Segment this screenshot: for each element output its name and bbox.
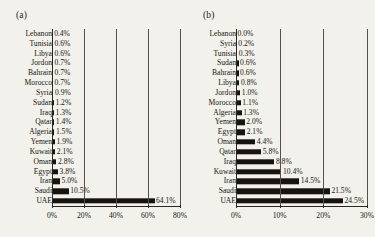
- category-label: Yemen: [215, 119, 236, 127]
- bar-row: Syria0.9%: [0, 88, 188, 98]
- category-label: Saudi: [35, 187, 52, 195]
- category-label: Iran: [40, 178, 52, 186]
- bar-row: Bahrain0.6%: [187, 68, 375, 78]
- category-label: Bahrain: [28, 69, 52, 77]
- bar-track: 0.8%: [236, 78, 367, 88]
- bar-track: 8.8%: [236, 157, 367, 167]
- bar-track: 5.8%: [236, 147, 367, 157]
- bar: [236, 189, 330, 194]
- bar-value-label: 1.1%: [241, 99, 258, 107]
- category-label: Syria: [36, 89, 52, 97]
- bar-value-label: 0.6%: [239, 60, 256, 68]
- category-label: Oman: [217, 138, 236, 146]
- bar-row: Bahrain0.7%: [0, 68, 188, 78]
- bar-value-label: 21.5%: [330, 187, 351, 195]
- bar-track: 2.1%: [236, 127, 367, 137]
- bar-value-label: 1.0%: [240, 89, 257, 97]
- category-label: Lebanon: [209, 30, 236, 38]
- figure-root: (a) Lebanon0.4%Tunisia0.6%Libya0.6%Jordo…: [0, 0, 375, 237]
- category-label: Yemen: [31, 138, 52, 146]
- bar-value-label: 0.8%: [239, 79, 256, 87]
- bar-value-label: 5.0%: [60, 178, 77, 186]
- bar-row: Oman4.4%: [187, 137, 375, 147]
- bar-value-label: 0.3%: [237, 50, 254, 58]
- panel-a-rows: Lebanon0.4%Tunisia0.6%Libya0.6%Jordon0.7…: [0, 29, 188, 206]
- bar-row: UAE64.1%: [0, 196, 188, 206]
- bar-row: Syria0.2%: [187, 39, 375, 49]
- bar: [236, 179, 299, 184]
- bar: [236, 198, 343, 203]
- x-tick-mark: [84, 205, 85, 208]
- x-tick-label: 0%: [47, 211, 57, 220]
- bar-row: Saudi10.5%: [0, 186, 188, 196]
- bar-row: Lebanon0.4%: [0, 29, 188, 39]
- panel-a-plot-area: Lebanon0.4%Tunisia0.6%Libya0.6%Jordon0.7…: [0, 29, 188, 206]
- bar-value-label: 0.6%: [53, 50, 70, 58]
- category-label: Bahrain: [212, 69, 236, 77]
- category-label: Tunisia: [29, 40, 52, 48]
- x-tick-label: 60%: [141, 211, 155, 220]
- bar-row: Jordon0.7%: [0, 59, 188, 69]
- bar-value-label: 0.6%: [239, 69, 256, 77]
- x-tick-mark: [236, 205, 237, 208]
- bar-value-label: 1.3%: [242, 109, 259, 117]
- bar-value-label: 10.4%: [281, 168, 302, 176]
- category-label: Libya: [34, 50, 52, 58]
- bar-track: 10.4%: [236, 167, 367, 177]
- bar-value-label: 0.7%: [53, 79, 70, 87]
- gridline-a-60%: [148, 29, 149, 206]
- bar-row: Iran5.0%: [0, 177, 188, 187]
- bar-row: Saudi21.5%: [187, 186, 375, 196]
- bar-value-label: 0.7%: [53, 60, 70, 68]
- bar-value-label: 1.5%: [54, 128, 71, 136]
- x-tick-label: 20%: [77, 211, 91, 220]
- x-tick-label: 80%: [173, 211, 187, 220]
- bar-value-label: 0.4%: [53, 30, 70, 38]
- bar-track: 0.6%: [236, 59, 367, 69]
- category-label: Algeria: [213, 109, 236, 117]
- bar-value-label: 14.5%: [299, 178, 320, 186]
- bar-track: 1.0%: [236, 88, 367, 98]
- gridline-b-10%: [280, 29, 281, 206]
- bar-row: Iraq1.3%: [0, 108, 188, 118]
- bar-track: 4.4%: [236, 137, 367, 147]
- panel-b-plot-area: Lebanon0.0%Syria0.2%Tunisia0.3%Sudan0.6%…: [187, 29, 375, 206]
- category-label: Sudan: [217, 60, 236, 68]
- bar: [52, 198, 155, 203]
- bar-row: Qatar5.8%: [187, 147, 375, 157]
- x-tick-label: 0%: [231, 211, 241, 220]
- bar-row: Kuwait2.1%: [0, 147, 188, 157]
- gridline-a-20%: [84, 29, 85, 206]
- bar-row: Lebanon0.0%: [187, 29, 375, 39]
- bar-value-label: 1.9%: [55, 138, 72, 146]
- bar-row: Oman2.8%: [0, 157, 188, 167]
- bar-value-label: 0.7%: [53, 69, 70, 77]
- panel-a-x-axis: 0%20%40%60%80%: [52, 208, 180, 222]
- y-axis-line-a: [52, 29, 53, 206]
- bar-row: Tunisia0.3%: [187, 49, 375, 59]
- bar-value-label: 1.2%: [54, 99, 71, 107]
- gridline-b-20%: [323, 29, 324, 206]
- x-tick-mark: [367, 205, 368, 208]
- x-tick-mark: [52, 205, 53, 208]
- x-tick-label: 20%: [316, 211, 330, 220]
- bar-value-label: 24.5%: [343, 197, 364, 205]
- panel-a: (a) Lebanon0.4%Tunisia0.6%Libya0.6%Jordo…: [0, 0, 188, 237]
- x-tick-label: 30%: [360, 211, 374, 220]
- x-tick-mark: [116, 205, 117, 208]
- bar-value-label: 1.3%: [54, 109, 71, 117]
- gridline-a-40%: [116, 29, 117, 206]
- category-label: Jordon: [31, 60, 52, 68]
- bar-value-label: 10.5%: [69, 187, 90, 195]
- panel-b-rows: Lebanon0.0%Syria0.2%Tunisia0.3%Sudan0.6%…: [187, 29, 375, 206]
- bar-track: 0.3%: [236, 49, 367, 59]
- y-axis-line-b: [236, 29, 237, 206]
- bar-value-label: 2.0%: [245, 119, 262, 127]
- bar-track: 21.5%: [236, 186, 367, 196]
- bar-value-label: 4.4%: [255, 138, 272, 146]
- category-label: Iran: [224, 178, 236, 186]
- x-tick-mark: [180, 205, 181, 208]
- bar-track: 24.5%: [236, 196, 367, 206]
- x-tick-mark: [323, 205, 324, 208]
- bar-value-label: 3.8%: [58, 168, 75, 176]
